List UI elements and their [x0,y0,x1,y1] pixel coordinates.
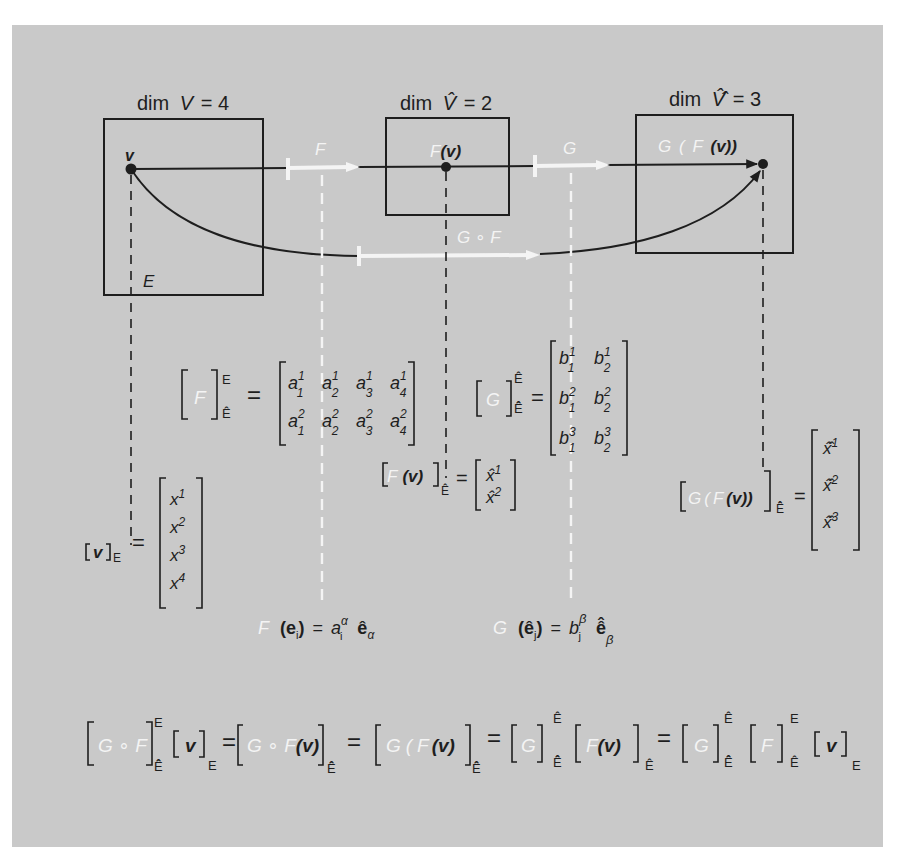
space-V-box [104,119,263,295]
svg-text:G(F(v)): G(F(v)) [688,489,753,508]
svg-text:E: E [222,372,231,387]
svg-text:=: = [247,381,261,408]
point-Fv-label: F(v) [430,142,462,161]
svg-text:a14: a14 [390,369,407,400]
matrix-G-cells: b11 b12 b21 b22 b31 b32 [559,345,611,455]
svg-text:F (ei) = aαi: F (ei) = aαi êα [258,614,375,644]
svg-text:b11: b11 [559,345,575,375]
linear-map-composition-diagram: dim V = 4 E v dim V̂ = 2 F(v) dim V̂̂ = … [0,0,900,866]
svg-text:Ê: Ê [645,758,654,773]
vector-v-equation: v E = x1 x2 x3 x4 [86,478,202,608]
svg-text:F: F [194,387,207,408]
matrix-F-equation: F E Ê = a11 a12 a13 a14 a21 a22 a23 a24 [182,362,414,445]
equals-4: = [657,724,671,751]
svg-text:E: E [852,758,861,773]
svg-text:Ê̂: Ê̂ [553,755,562,770]
svg-text:Ê̂: Ê̂ [154,759,163,774]
svg-text:G (êj) = bβj: G (êj) = bβj ê̂β [493,611,614,647]
svg-text:a24: a24 [390,407,407,438]
svg-text:=: = [132,530,145,555]
svg-text:Ê: Ê [790,755,799,770]
composition-equation: G ∘ F E Ê̂ v E = G ∘ F(v) Ê̂ = G(F(v) Ê̂… [88,711,861,776]
svg-text:Ê: Ê [724,711,733,726]
svg-text:x̂2: x̂2 [485,485,502,507]
svg-text:Ê̂: Ê̂ [776,501,784,516]
svg-text:v: v [93,543,104,562]
svg-text:Ê: Ê [553,711,562,726]
svg-text:a23: a23 [356,407,373,438]
svg-text:x̂̂2: x̂̂2 [822,473,839,495]
svg-text:a12: a12 [322,369,339,400]
svg-text:=: = [456,467,468,489]
svg-text:b12: b12 [594,345,611,375]
space-V-title: dim V = 4 [137,92,229,114]
space-V-hat-group: dim V̂ = 2 F(v) [386,92,509,215]
svg-text:a22: a22 [322,407,339,438]
svg-text:a13: a13 [356,369,373,400]
equals-1: = [222,728,236,755]
map-F-label: F [315,140,327,159]
svg-text:x̂̂3: x̂̂3 [822,510,839,532]
map-G-arrow: G [535,139,610,177]
point-GFv-label: G ( F (v)) [658,137,737,156]
svg-text:E: E [208,758,217,773]
svg-text:G ∘ F: G ∘ F [98,735,148,756]
svg-text:F(v): F(v) [387,467,424,486]
space-V-group: dim V = 4 E v [104,92,263,295]
matrix-F-cells: a11 a12 a13 a14 a21 a22 a23 a24 [288,369,407,438]
matrix-G-equation: G Ê Ê̂ = b11 b12 b21 b22 b31 b32 [477,341,627,455]
space-V-hat-title: dim V̂ = 2 [400,92,492,114]
svg-text:a21: a21 [288,407,305,438]
space-V-hathat-title: dim V̂̂ = 3 [669,88,761,110]
svg-text:Ê̂: Ê̂ [514,401,523,416]
svg-text:F: F [761,735,774,756]
svg-text:=: = [531,385,544,410]
space-V-hathat-group: dim V̂̂ = 3 G ( F (v)) [636,88,793,253]
svg-text:b32: b32 [594,425,611,455]
svg-text:Ê: Ê [514,371,523,386]
svg-text:x̂1: x̂1 [485,463,501,485]
space-V-hathat-box [636,115,793,253]
svg-text:G(F(v): G(F(v) [386,735,455,756]
svg-text:Ê̂: Ê̂ [327,761,336,776]
svg-text:=: = [794,485,806,507]
map-GF-arrow: G ∘ F [131,169,760,266]
svg-text:b31: b31 [559,425,576,455]
map-F-arrow: F [288,140,360,180]
equals-2: = [347,728,361,755]
svg-text:E: E [113,551,121,565]
vector-GFv-equation: G(F(v)) Ê̂ = x̂̂1 x̂̂2 x̂̂3 [681,430,859,550]
svg-text:Ê: Ê [222,406,231,421]
svg-text:F(v): F(v) [586,735,621,756]
basis-E-label: E [143,272,155,291]
svg-text:b22: b22 [594,385,611,415]
vector-Fv-equation: F(v) Ê = x̂1 x̂2 [383,460,515,510]
svg-text:b21: b21 [559,385,576,415]
basis-relation-G: G (êj) = bβj ê̂β [493,611,614,647]
svg-text:Ê̂: Ê̂ [724,755,733,770]
svg-text:x̂̂1: x̂̂1 [822,436,838,458]
svg-text:x4: x4 [169,571,186,593]
svg-text:G: G [486,390,500,410]
svg-text:Ê̂: Ê̂ [472,761,481,776]
svg-text:G: G [521,735,536,756]
point-v-label: v [125,147,135,164]
map-G-label: G [563,139,576,158]
svg-text:x3: x3 [169,543,186,565]
svg-text:a11: a11 [288,369,304,400]
map-GF-label: G ∘ F [457,228,502,247]
svg-text:x2: x2 [169,515,186,537]
svg-text:v: v [826,735,838,756]
point-GFv-dot [758,159,768,169]
svg-text:G ∘ F(v): G ∘ F(v) [247,735,319,756]
svg-text:G: G [694,735,709,756]
svg-text:x1: x1 [169,487,185,509]
svg-text:E: E [790,711,799,726]
equals-3: = [487,724,501,751]
svg-text:v: v [185,735,197,756]
svg-text:E: E [154,715,163,730]
basis-relation-F: F (ei) = aαi êα [258,614,375,644]
svg-text:Ê: Ê [441,483,449,498]
